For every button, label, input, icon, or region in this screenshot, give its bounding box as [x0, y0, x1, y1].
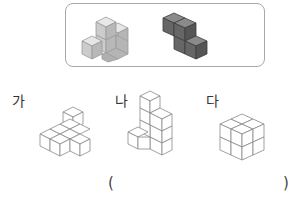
answer-open-paren: ( [108, 174, 114, 192]
answer-close-paren: ) [283, 174, 289, 192]
answer-blank[interactable] [118, 174, 278, 192]
